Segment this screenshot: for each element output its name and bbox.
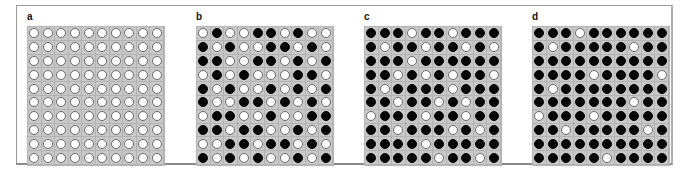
grid-cell (392, 68, 406, 82)
open-circle-icon (124, 70, 134, 80)
open-circle-icon (421, 70, 431, 80)
open-circle-icon (84, 42, 94, 52)
open-circle-icon (266, 125, 276, 135)
filled-circle-icon (548, 111, 558, 121)
grid-cell (547, 96, 561, 110)
filled-circle-icon (589, 84, 599, 94)
open-circle-icon (407, 56, 417, 66)
grid-cell (474, 151, 488, 165)
open-circle-icon (124, 28, 134, 38)
open-circle-icon (84, 70, 94, 80)
filled-circle-icon (461, 153, 471, 163)
grid-cell (279, 110, 293, 124)
grid-cell (319, 110, 333, 124)
grid-cell (292, 110, 306, 124)
filled-circle-icon (657, 111, 667, 121)
panel-label: a (27, 12, 33, 22)
open-circle-icon (280, 125, 290, 135)
grid-cell (110, 27, 124, 41)
grid-cell (587, 124, 601, 138)
grid-cell (238, 41, 252, 55)
filled-circle-icon (407, 97, 417, 107)
grid-cell (319, 96, 333, 110)
grid-cell (419, 68, 433, 82)
grid-cell (306, 110, 320, 124)
grid-cell (292, 151, 306, 165)
grid-cell (560, 96, 574, 110)
filled-circle-icon (321, 84, 331, 94)
open-circle-icon (43, 70, 53, 80)
grid-cell (628, 96, 642, 110)
grid-cell (96, 137, 110, 151)
grid-cell (28, 151, 42, 165)
filled-circle-icon (643, 70, 653, 80)
open-circle-icon (307, 56, 317, 66)
filled-circle-icon (225, 111, 235, 121)
grid-cell (547, 68, 561, 82)
grid-cell (224, 151, 238, 165)
open-circle-icon (29, 70, 39, 80)
open-circle-icon (380, 84, 390, 94)
grid-cell (251, 55, 265, 69)
open-circle-icon (70, 153, 80, 163)
filled-circle-icon (434, 84, 444, 94)
grid-cell (655, 96, 669, 110)
filled-circle-icon (602, 84, 612, 94)
open-circle-icon (152, 97, 162, 107)
grid-cell (110, 137, 124, 151)
filled-circle-icon (489, 97, 499, 107)
grid-cell (55, 55, 69, 69)
open-circle-icon (97, 139, 107, 149)
grid-cell (123, 41, 137, 55)
grid-cell (487, 68, 501, 82)
grid-cell (460, 68, 474, 82)
grid-cell (642, 96, 656, 110)
open-circle-icon (212, 139, 222, 149)
open-circle-icon (124, 97, 134, 107)
filled-circle-icon (461, 84, 471, 94)
open-circle-icon (97, 56, 107, 66)
grid-cell (319, 41, 333, 55)
grid-cell (123, 137, 137, 151)
grid-cell (123, 124, 137, 138)
filled-circle-icon (616, 111, 626, 121)
open-circle-icon (138, 139, 148, 149)
open-circle-icon (212, 42, 222, 52)
grid-cell (69, 82, 83, 96)
grid-cell (655, 137, 669, 151)
open-circle-icon (111, 70, 121, 80)
grid-cell (560, 137, 574, 151)
grid-cell (460, 96, 474, 110)
grid-cell (55, 110, 69, 124)
grid-cell (406, 96, 420, 110)
grid-cell (150, 55, 164, 69)
grid-cell (150, 137, 164, 151)
open-circle-icon (321, 139, 331, 149)
grid-cell (69, 55, 83, 69)
open-circle-icon (124, 139, 134, 149)
grid-cell (533, 27, 547, 41)
open-circle-icon (29, 84, 39, 94)
filled-circle-icon (421, 153, 431, 163)
open-circle-icon (97, 70, 107, 80)
open-circle-icon (280, 153, 290, 163)
open-circle-icon (602, 153, 612, 163)
grid-cell (96, 124, 110, 138)
open-circle-icon (307, 153, 317, 163)
open-circle-icon (561, 125, 571, 135)
grid-cell (365, 151, 379, 165)
open-circle-icon (657, 70, 667, 80)
grid-cell (642, 151, 656, 165)
open-circle-icon (43, 97, 53, 107)
filled-circle-icon (643, 42, 653, 52)
panel-label: b (196, 12, 202, 22)
grid-cell (42, 137, 56, 151)
filled-circle-icon (643, 28, 653, 38)
open-circle-icon (56, 84, 66, 94)
grid-cell (238, 55, 252, 69)
filled-circle-icon (589, 153, 599, 163)
grid-cell (392, 96, 406, 110)
grid-cell (379, 110, 393, 124)
open-circle-icon (434, 97, 444, 107)
panel-label: d (532, 12, 538, 22)
